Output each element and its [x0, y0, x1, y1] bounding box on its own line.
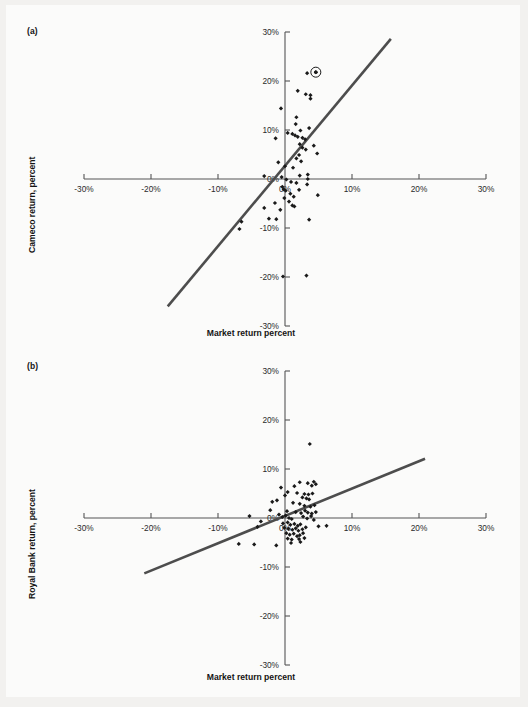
data-point: [298, 502, 302, 506]
data-point: [316, 193, 320, 197]
data-point: [306, 177, 310, 181]
data-point: [306, 172, 310, 176]
x-axis-tick-label: 30%: [478, 184, 495, 194]
y-axis-tick-label: 30%: [262, 366, 279, 376]
x-axis-tick-label: -20%: [141, 523, 161, 533]
data-point: [282, 196, 286, 200]
x-axis-tick-label: -10%: [208, 184, 228, 194]
data-point: [305, 71, 309, 75]
data-point: [305, 182, 309, 186]
y-axis-tick-label: 10%: [262, 125, 279, 135]
data-point: [273, 201, 277, 205]
figure-page: (a) Cameco return, percent Market return…: [0, 0, 528, 707]
data-point: [292, 522, 296, 526]
x-axis-tick-label: 20%: [411, 184, 428, 194]
y-axis-tick-label: -30%: [260, 660, 280, 670]
data-point: [298, 480, 302, 484]
data-point: [298, 173, 302, 177]
data-point: [291, 166, 295, 170]
data-point: [286, 490, 290, 494]
data-point: [302, 536, 306, 540]
outlier-data-point: [314, 70, 318, 74]
data-point: [292, 195, 296, 199]
x-axis-tick-label: -10%: [208, 523, 228, 533]
panel-a-scatter-plot: -30%-20%-10%0%10%20%30%-30%-20%-10%0%10%…: [6, 5, 520, 353]
data-point: [294, 122, 298, 126]
data-point: [316, 524, 320, 528]
figure-canvas: (a) Cameco return, percent Market return…: [6, 5, 520, 697]
data-point: [291, 501, 295, 505]
data-point: [304, 525, 308, 529]
x-axis-tick-label: -30%: [74, 523, 94, 533]
data-point: [296, 529, 300, 533]
data-point: [289, 541, 293, 545]
data-point: [237, 227, 241, 231]
data-point: [308, 442, 312, 446]
x-axis-tick-label: -20%: [141, 184, 161, 194]
y-axis-tick-label: 30%: [262, 27, 279, 37]
data-point: [298, 128, 302, 132]
data-point: [274, 543, 278, 547]
data-point: [276, 160, 280, 164]
y-axis-tick-label: 10%: [262, 464, 279, 474]
data-point: [314, 510, 318, 514]
data-point: [275, 498, 279, 502]
panel-b-scatter-plot: -30%-20%-10%0%10%20%30%-30%-20%-10%0%10%…: [6, 353, 520, 697]
data-point: [262, 206, 266, 210]
data-point: [315, 151, 319, 155]
data-point: [294, 156, 298, 160]
data-point: [297, 153, 301, 157]
data-point: [310, 484, 314, 488]
data-point: [307, 126, 311, 130]
data-point: [301, 531, 305, 535]
data-point: [306, 481, 310, 485]
y-axis-tick-label: -20%: [260, 611, 280, 621]
data-point: [262, 174, 266, 178]
x-axis-tick-label: 30%: [478, 523, 495, 533]
data-point: [297, 188, 301, 192]
data-point: [300, 527, 304, 531]
data-point: [294, 115, 298, 119]
data-point: [274, 217, 278, 221]
data-point: [279, 106, 283, 110]
regression-fit-line: [168, 39, 391, 307]
data-point: [267, 217, 271, 221]
data-point: [302, 492, 306, 496]
data-point: [308, 97, 312, 101]
data-point: [268, 508, 272, 512]
data-point: [270, 500, 274, 504]
data-point: [292, 532, 296, 536]
y-axis-tick-label: -10%: [260, 223, 280, 233]
data-point: [294, 181, 298, 185]
data-point: [278, 208, 282, 212]
y-axis-tick-label: -30%: [260, 321, 280, 331]
y-axis-tick-label: -10%: [260, 562, 280, 572]
data-point: [237, 542, 241, 546]
data-point: [305, 516, 309, 520]
y-axis-tick-label: -20%: [260, 272, 280, 282]
panel-b: (b) Royal Bank return, percent Market re…: [6, 353, 520, 697]
data-point: [304, 273, 308, 277]
data-point: [296, 89, 300, 93]
panel-a: (a) Cameco return, percent Market return…: [6, 5, 520, 353]
data-point: [274, 136, 278, 140]
data-point: [252, 542, 256, 546]
data-point: [292, 484, 296, 488]
data-point: [279, 486, 283, 490]
data-point: [312, 144, 316, 148]
x-axis-tick-label: 10%: [344, 523, 361, 533]
data-point: [259, 519, 263, 523]
y-axis-tick-label: 20%: [262, 76, 279, 86]
data-point: [304, 148, 308, 152]
data-point: [286, 536, 290, 540]
x-axis-tick-label: 10%: [344, 184, 361, 194]
data-point: [300, 495, 304, 499]
data-point: [324, 524, 328, 528]
data-point: [287, 199, 291, 203]
data-point: [310, 491, 314, 495]
x-axis-tick-label: 20%: [411, 523, 428, 533]
data-point: [304, 92, 308, 96]
data-point: [299, 511, 303, 515]
x-axis-tick-label: -30%: [74, 184, 94, 194]
data-point: [299, 159, 303, 163]
